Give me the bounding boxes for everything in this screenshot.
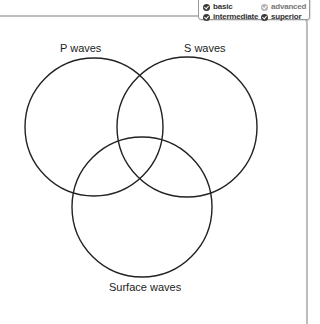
label-surface-waves: Surface waves [109, 281, 181, 293]
circle-p-waves [25, 58, 163, 196]
circle-s-waves [117, 57, 257, 197]
venn-diagram [0, 0, 320, 324]
label-p-waves: P waves [60, 42, 101, 54]
label-s-waves: S waves [184, 42, 226, 54]
circle-surface-waves [72, 137, 212, 277]
